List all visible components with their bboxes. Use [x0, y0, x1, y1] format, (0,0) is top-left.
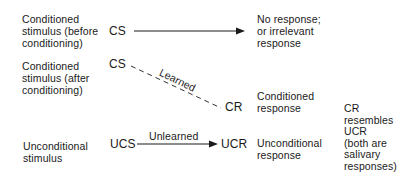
unlearned-arrow [137, 141, 218, 148]
arrowhead-icon [209, 141, 218, 148]
connector-lines [0, 0, 417, 181]
row1-arrow [134, 28, 245, 35]
learned-dashed-link [131, 66, 221, 108]
arrowhead-icon [236, 28, 245, 35]
